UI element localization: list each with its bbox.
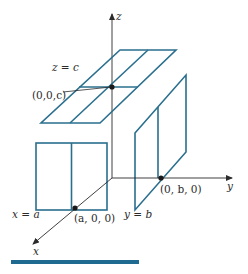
- point-a-marker: [72, 205, 77, 210]
- z-axis-label: z: [115, 10, 122, 22]
- plane-y-label: y = b: [123, 208, 152, 220]
- point-b-label: (0, b, 0): [160, 183, 202, 195]
- point-a-label: (a, 0, 0): [74, 212, 115, 224]
- bottom-rule: [11, 260, 139, 264]
- y-axis-label: y: [226, 180, 234, 192]
- plane-x-equals-a: [36, 143, 107, 210]
- point-b-marker: [158, 175, 163, 180]
- plane-z-label: z = c: [51, 61, 79, 73]
- coordinate-planes-diagram: z y x z = c x = a y = b (0,0,c) (a, 0, 0…: [0, 0, 248, 274]
- x-axis: [33, 178, 112, 244]
- x-axis-label: x: [33, 245, 39, 257]
- point-c-label: (0,0,c): [32, 89, 66, 101]
- plane-x-label: x = a: [12, 208, 40, 220]
- point-c-marker: [109, 84, 114, 89]
